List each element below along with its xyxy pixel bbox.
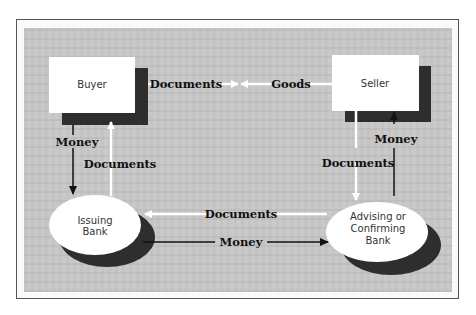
- edge-label-money: Money: [56, 135, 99, 149]
- edge-label-money: Money: [220, 235, 263, 249]
- edge-label-documents: Documents: [150, 77, 223, 91]
- advising-bank-node: Advising or Confirming Bank: [326, 202, 441, 275]
- edge-documents-issuing-buyer: Documents: [84, 122, 157, 196]
- edge-documents-advising-issuing: Documents: [145, 207, 327, 221]
- edge-money-advising-seller: Money: [375, 112, 418, 196]
- edge-label-documents: Documents: [205, 207, 278, 221]
- edge-documents-seller-advising: Documents: [322, 111, 395, 200]
- lc-flow-diagram: Buyer Seller Issuing Bank Advising or Co…: [0, 0, 476, 315]
- edge-documents-buyer-seller: Documents: [148, 77, 238, 91]
- issuing-bank-label-line1: Issuing: [77, 215, 112, 226]
- edge-label-documents: Documents: [84, 157, 157, 171]
- edge-label-goods: Goods: [271, 77, 311, 91]
- issuing-bank-node: Issuing Bank: [49, 195, 155, 267]
- issuing-bank-label-line2: Bank: [82, 226, 107, 237]
- edge-label-money: Money: [375, 132, 418, 146]
- edge-label-documents: Documents: [322, 156, 395, 170]
- advising-bank-label-line1: Advising or: [350, 211, 407, 222]
- buyer-node: Buyer: [49, 57, 148, 125]
- buyer-label: Buyer: [77, 79, 107, 90]
- advising-bank-label-line3: Bank: [365, 235, 390, 246]
- seller-label: Seller: [361, 78, 390, 89]
- edge-goods-seller-buyer: Goods: [241, 77, 332, 91]
- seller-node: Seller: [332, 55, 431, 122]
- advising-bank-label-line2: Confirming: [351, 223, 406, 234]
- edge-money-issuing-advising: Money: [143, 235, 328, 249]
